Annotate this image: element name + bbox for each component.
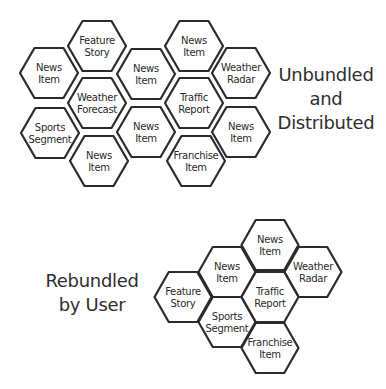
- hex-label-line: Item: [259, 246, 281, 257]
- hex-weather-forecast: WeatherForecast: [68, 78, 126, 128]
- hex-news-item-5: NewsItem: [212, 107, 270, 157]
- hex-news-item-1: NewsItem: [20, 48, 78, 98]
- hex-label-line: Item: [230, 133, 252, 144]
- hexagon-shape: [165, 78, 223, 128]
- hexagon-shape: [20, 48, 78, 98]
- hex-label-line: Segment: [29, 134, 72, 145]
- hex-label-line: Segment: [206, 323, 249, 334]
- hex-news-item-2: NewsItem: [117, 49, 175, 99]
- hex-label-line: Story: [85, 47, 110, 58]
- hex-label-line: Report: [178, 104, 210, 115]
- caption-line: by User: [37, 293, 147, 317]
- hex-label-line: News: [133, 63, 159, 74]
- hex-news-item-6: NewsItem: [70, 136, 128, 186]
- hex-label-line: Item: [135, 133, 157, 144]
- unbundled-hex-cluster: FeatureStoryNewsItemNewsItemNewsItemWeat…: [20, 21, 270, 186]
- hex-weather-radar: WeatherRadar: [212, 48, 270, 98]
- hex-label-line: Weather: [221, 62, 262, 73]
- hex-traffic-report: TrafficReport: [165, 78, 223, 128]
- hexagon-shape: [21, 108, 79, 158]
- caption-line: Unbundled: [276, 63, 376, 87]
- hex-label-line: Item: [38, 74, 60, 85]
- hex-news-item-3: NewsItem: [165, 21, 223, 71]
- hexagon-shape: [212, 107, 270, 157]
- hex-label-line: Radar: [299, 273, 328, 284]
- hex-label-line: News: [228, 121, 254, 132]
- hexagon-shape: [117, 49, 175, 99]
- hex-sports-segment: SportsSegment: [21, 108, 79, 158]
- hex-label-line: Item: [88, 162, 110, 173]
- hex-feature-story: FeatureStory: [68, 21, 126, 71]
- hex-news-item-4: NewsItem: [117, 107, 175, 157]
- hex-label-line: News: [257, 234, 283, 245]
- hex-label-line: Franchise: [248, 337, 293, 348]
- hex-label-line: News: [214, 261, 240, 272]
- caption-line: Rebundled: [37, 269, 147, 293]
- hexagon-shape: [167, 136, 225, 186]
- rebundled-by-user-caption: Rebundled by User: [37, 269, 147, 317]
- hexagon-shape: [165, 21, 223, 71]
- hexagon-shape: [212, 48, 270, 98]
- hex-label-line: Item: [135, 75, 157, 86]
- hex-label-line: Item: [185, 162, 207, 173]
- hex-label-line: Feature: [165, 286, 201, 297]
- hex-label-line: News: [86, 150, 112, 161]
- hexagon-shape: [68, 78, 126, 128]
- rebundled-hex-cluster: FeatureStoryNewsItemNewsItemWeatherRadar…: [155, 220, 342, 373]
- hex-label-line: Traffic: [179, 92, 208, 103]
- hex-label-line: News: [36, 62, 62, 73]
- hex-label-line: Franchise: [174, 150, 219, 161]
- hex-label-line: Story: [171, 298, 196, 309]
- hex-label-line: Feature: [79, 35, 115, 46]
- hexagon-shape: [117, 107, 175, 157]
- hex-label-line: Forecast: [77, 104, 117, 115]
- hex-label-line: Report: [254, 298, 286, 309]
- hexagon-shape: [70, 136, 128, 186]
- hex-label-line: Weather: [293, 261, 334, 272]
- unbundled-and-distributed-caption: Unbundled and Distributed: [276, 63, 376, 135]
- hex-label-line: Radar: [227, 74, 256, 85]
- caption-line: Distributed: [276, 111, 376, 135]
- hexagon-shape: [68, 21, 126, 71]
- hex-label-line: News: [133, 121, 159, 132]
- hex-label-line: News: [181, 35, 207, 46]
- hex-label-line: Item: [183, 47, 205, 58]
- hex-label-line: Item: [259, 349, 281, 360]
- hex-diagram: FeatureStoryNewsItemNewsItemNewsItemWeat…: [0, 0, 386, 389]
- hex-label-line: Item: [216, 273, 238, 284]
- caption-line: and: [276, 87, 376, 111]
- hex-label-line: Weather: [77, 92, 118, 103]
- hex-label-line: Sports: [35, 122, 65, 133]
- hex-label-line: Traffic: [255, 286, 284, 297]
- hex-label-line: Sports: [212, 311, 242, 322]
- hex-franchise-item: FranchiseItem: [167, 136, 225, 186]
